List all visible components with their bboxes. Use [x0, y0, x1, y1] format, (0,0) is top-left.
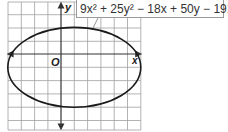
y-axis-label: y [65, 1, 71, 13]
grid [8, 2, 141, 130]
leader-line [93, 18, 98, 28]
x-axis-label: x [132, 55, 138, 66]
origin-label: O [51, 56, 60, 68]
graph [0, 0, 228, 132]
equation-label: 9x² + 25y² − 18x + 50y − 191 = 0 [76, 0, 224, 18]
